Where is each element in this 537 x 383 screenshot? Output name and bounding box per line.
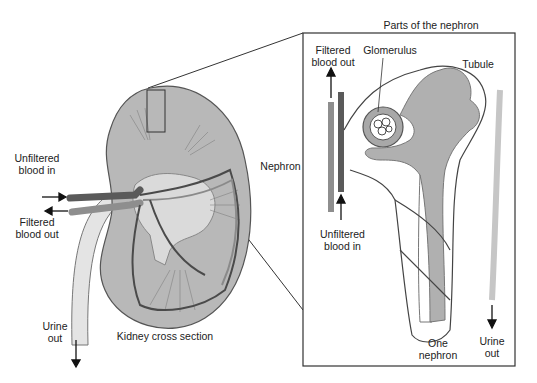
one-nephron-label-1: One [418,337,458,349]
kidney-caption: Kidney cross section [110,330,220,342]
panel-urine-label-1: Urine [477,335,507,347]
kidney-nephron-diagram [0,0,537,383]
left-filtered-label-1: Filtered [2,216,72,228]
filtered-vessel [328,102,334,212]
left-unfiltered-label-2: blood in [2,164,72,176]
nephron-side-label: Nephron [258,160,303,172]
diagram-title: Parts of the nephron [376,19,486,31]
unfiltered-vessel [338,92,344,192]
left-urine-label-1: Urine [40,320,70,332]
panel-unfiltered-label-1: Unfiltered [315,228,370,240]
panel-filtered-label-2: blood out [308,56,358,68]
one-nephron-label-2: nephron [418,349,458,361]
tubule-label: Tubule [458,58,498,70]
left-filtered-label-2: blood out [2,228,72,240]
left-urine-label-2: out [40,332,70,344]
zoom-line-top [148,33,303,88]
left-unfiltered-label-1: Unfiltered [2,152,72,164]
panel-unfiltered-label-2: blood in [315,240,370,252]
panel-urine-label-2: out [477,347,507,359]
panel-filtered-label-1: Filtered [308,44,358,56]
glomerulus-label: Glomerulus [360,44,420,56]
